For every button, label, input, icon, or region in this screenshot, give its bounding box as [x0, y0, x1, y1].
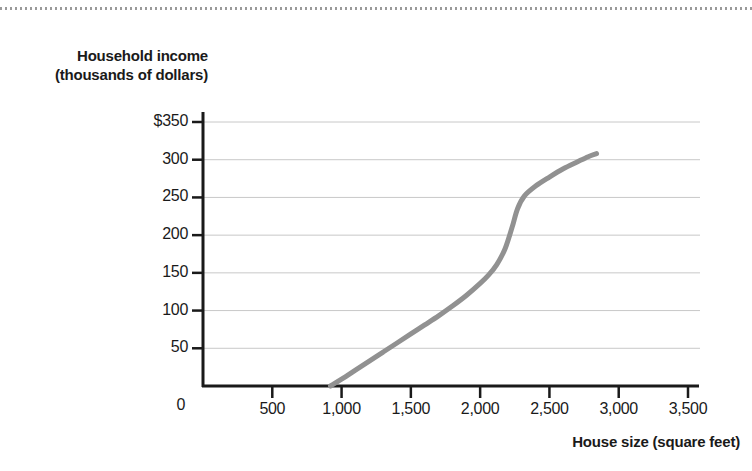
data-series-line [330, 154, 596, 386]
y-tick-label: $350 [100, 112, 188, 130]
y-tick-marks-group [192, 122, 203, 348]
y-tick-label: 250 [100, 187, 188, 205]
y-tick-label: 100 [100, 301, 188, 319]
chart-figure: Household income (thousands of dollars) … [0, 0, 752, 471]
x-tick-label: 3,500 [643, 400, 733, 418]
y-tick-label: 300 [100, 150, 188, 168]
x-tick-marks-group [272, 386, 688, 398]
gridlines-group [203, 122, 700, 348]
y-tick-label: 150 [100, 263, 188, 281]
y-tick-label: 200 [100, 225, 188, 243]
y-tick-label: 50 [100, 338, 188, 356]
